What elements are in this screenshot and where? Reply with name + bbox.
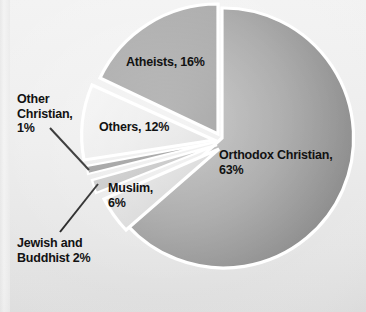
slice-label-other-christian: Other Christian, 1% xyxy=(17,92,73,136)
slice-label-jewish-and-buddhist: Jewish and Buddhist 2% xyxy=(17,236,91,265)
slice-label-orthodox-christian: Orthodox Christian, 63% xyxy=(219,148,333,177)
slice-label-atheists: Atheists, 16% xyxy=(126,55,205,70)
slice-label-muslim: Muslim, 6% xyxy=(108,181,153,210)
pie-chart: Orthodox Christian, 63% Atheists, 16% Ot… xyxy=(0,0,366,312)
slice-label-others: Others, 12% xyxy=(99,120,169,135)
